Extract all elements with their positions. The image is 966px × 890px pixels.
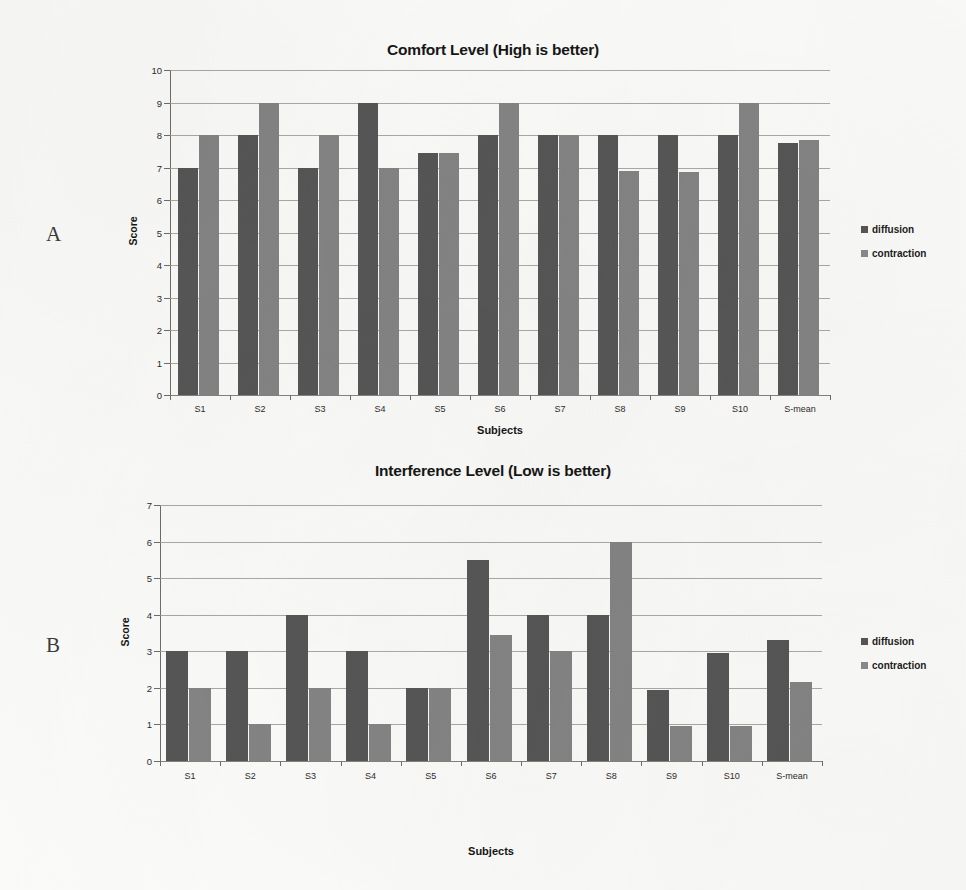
- y-axis-tick-label: 3: [136, 292, 162, 303]
- y-axis-tick-label: 1: [136, 357, 162, 368]
- bar-s8-diffusion: [598, 135, 618, 395]
- chart-a-x-axis-title: Subjects: [170, 424, 830, 436]
- bar-s8-diffusion: [587, 615, 609, 761]
- bar-s8-contraction: [619, 171, 639, 395]
- bar-s-mean-contraction: [799, 140, 819, 395]
- x-axis-tick: [530, 395, 531, 400]
- x-axis-tick: [702, 761, 703, 766]
- y-axis-tick: [164, 103, 170, 104]
- bar-s9-contraction: [679, 172, 699, 395]
- x-axis-tick: [401, 761, 402, 766]
- x-axis-tick-label-s5: S5: [401, 771, 461, 781]
- y-axis-tick: [154, 615, 160, 616]
- legend-swatch-contraction-icon: [861, 250, 868, 257]
- legend-item-diffusion: diffusion: [861, 636, 926, 647]
- y-axis-line: [160, 505, 161, 761]
- bar-s1-contraction: [199, 135, 219, 395]
- legend-label-diffusion: diffusion: [872, 636, 914, 647]
- y-axis-tick: [154, 688, 160, 689]
- bar-s10-diffusion: [718, 135, 738, 395]
- y-axis-tick-label: 6: [136, 195, 162, 206]
- bar-s7-diffusion: [538, 135, 558, 395]
- y-axis-tick: [164, 298, 170, 299]
- y-axis-tick: [164, 233, 170, 234]
- legend-label-contraction: contraction: [872, 248, 926, 259]
- bar-s8-contraction: [610, 542, 632, 761]
- bar-s1-contraction: [189, 688, 211, 761]
- y-axis-tick-label: 0: [126, 756, 152, 767]
- bar-s-mean-diffusion: [778, 143, 798, 395]
- x-axis-tick: [830, 395, 831, 400]
- y-axis-tick-label: 7: [136, 162, 162, 173]
- bar-s3-diffusion: [286, 615, 308, 761]
- bar-s7-contraction: [550, 651, 572, 761]
- bar-s10-contraction: [739, 103, 759, 396]
- y-axis-tick: [154, 651, 160, 652]
- x-axis-tick-label-s3: S3: [280, 771, 340, 781]
- bar-s6-diffusion: [467, 560, 489, 761]
- y-axis-tick-label: 10: [136, 65, 162, 76]
- y-axis-tick: [164, 135, 170, 136]
- bar-s9-contraction: [670, 726, 692, 761]
- x-axis-tick: [350, 395, 351, 400]
- bar-s-mean-diffusion: [767, 640, 789, 761]
- x-axis-tick: [581, 761, 582, 766]
- gridline: [170, 395, 830, 396]
- x-axis-tick-label-s7: S7: [521, 771, 581, 781]
- x-axis-tick-label-s7: S7: [530, 404, 590, 414]
- y-axis-tick: [164, 70, 170, 71]
- bar-s7-contraction: [559, 135, 579, 395]
- y-axis-tick-label: 2: [126, 682, 152, 693]
- x-axis-tick: [590, 395, 591, 400]
- x-axis-tick-label-s6: S6: [470, 404, 530, 414]
- x-axis-tick: [230, 395, 231, 400]
- bar-s3-contraction: [319, 135, 339, 395]
- legend-label-contraction: contraction: [872, 660, 926, 671]
- y-axis-tick: [164, 363, 170, 364]
- figure-root: A Comfort Level (High is better) 0123456…: [0, 0, 966, 890]
- legend-swatch-contraction-icon: [861, 662, 868, 669]
- x-axis-tick: [220, 761, 221, 766]
- x-axis-tick-label-s9: S9: [641, 771, 701, 781]
- x-axis-tick-label-s1: S1: [160, 771, 220, 781]
- legend-swatch-diffusion-icon: [861, 226, 868, 233]
- y-axis-tick: [164, 330, 170, 331]
- gridline: [160, 578, 822, 579]
- x-axis-tick-label-s6: S6: [461, 771, 521, 781]
- bar-s3-contraction: [309, 688, 331, 761]
- panel-a: A Comfort Level (High is better) 0123456…: [0, 0, 966, 450]
- x-axis-tick-label-s2: S2: [220, 771, 280, 781]
- chart-b-legend: diffusion contraction: [861, 636, 926, 684]
- chart-b-title: Interference Level (Low is better): [183, 462, 803, 480]
- bar-s6-contraction: [499, 103, 519, 396]
- bar-s2-diffusion: [238, 135, 258, 395]
- y-axis-tick-label: 3: [126, 646, 152, 657]
- y-axis-tick-label: 1: [126, 719, 152, 730]
- chart-a-legend: diffusion contraction: [861, 224, 926, 272]
- gridline: [160, 505, 822, 506]
- y-axis-tick: [164, 200, 170, 201]
- x-axis-tick: [170, 395, 171, 400]
- bar-s4-contraction: [379, 168, 399, 396]
- legend-item-contraction: contraction: [861, 248, 926, 259]
- x-axis-tick: [641, 761, 642, 766]
- bar-s5-contraction: [439, 153, 459, 395]
- y-axis-tick: [154, 724, 160, 725]
- x-axis-tick: [160, 761, 161, 766]
- y-axis-tick: [164, 168, 170, 169]
- legend-swatch-diffusion-icon: [861, 638, 868, 645]
- bar-s1-diffusion: [178, 168, 198, 396]
- y-axis-tick-label: 0: [136, 390, 162, 401]
- x-axis-tick: [410, 395, 411, 400]
- x-axis-tick: [521, 761, 522, 766]
- x-axis-tick-label-s2: S2: [230, 404, 290, 414]
- bar-s10-diffusion: [707, 653, 729, 761]
- y-axis-tick-label: 5: [136, 227, 162, 238]
- chart-b-x-axis-title: Subjects: [160, 845, 822, 857]
- bar-s5-diffusion: [418, 153, 438, 395]
- y-axis-tick-label: 2: [136, 325, 162, 336]
- panel-a-letter: A: [46, 222, 61, 247]
- bar-s2-diffusion: [226, 651, 248, 761]
- panel-b: B Interference Level (Low is better) 012…: [0, 450, 966, 890]
- legend-item-diffusion: diffusion: [861, 224, 926, 235]
